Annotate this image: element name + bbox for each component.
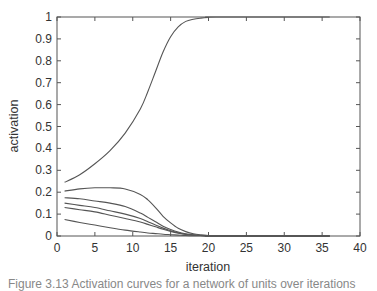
x-tick-label: 40 [353, 241, 367, 255]
y-tick-label: 0.9 [35, 32, 52, 46]
y-axis-ticks: 00.10.20.30.40.50.60.70.80.91 [35, 10, 360, 243]
x-tick-label: 20 [202, 241, 216, 255]
plot-border [57, 17, 360, 236]
y-tick-label: 0.8 [35, 54, 52, 68]
y-tick-label: 0.4 [35, 141, 52, 155]
y-tick-label: 0.2 [35, 185, 52, 199]
y-tick-label: 0.7 [35, 76, 52, 90]
x-tick-label: 15 [164, 241, 178, 255]
y-tick-label: 0.1 [35, 207, 52, 221]
x-tick-label: 30 [278, 241, 292, 255]
x-tick-label: 10 [126, 241, 140, 255]
y-tick-label: 0.5 [35, 120, 52, 134]
y-axis-label: activation [7, 100, 21, 153]
x-tick-label: 0 [54, 241, 61, 255]
data-series [65, 17, 330, 236]
series-line [65, 17, 330, 182]
x-tick-label: 35 [315, 241, 329, 255]
x-axis-label: iteration [186, 260, 231, 274]
figure-caption: Figure 3.13 Activation curves for a netw… [8, 277, 356, 291]
y-tick-label: 1 [45, 10, 52, 24]
x-tick-label: 25 [240, 241, 254, 255]
series-line [65, 208, 330, 236]
series-line [65, 198, 330, 236]
y-tick-label: 0.3 [35, 163, 52, 177]
y-tick-label: 0.6 [35, 98, 52, 112]
y-tick-label: 0 [45, 229, 52, 243]
plot-frame [57, 17, 360, 236]
series-line [65, 203, 330, 236]
x-tick-label: 5 [92, 241, 99, 255]
series-line [65, 220, 330, 236]
x-axis-ticks: 0510152025303540 [54, 17, 367, 255]
series-line [65, 188, 330, 236]
